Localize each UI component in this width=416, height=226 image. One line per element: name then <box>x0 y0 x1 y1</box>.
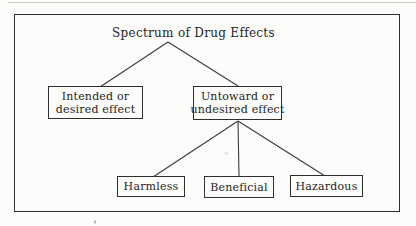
node-label: Beneficial <box>210 181 268 194</box>
connector-untoward-to-hazardous <box>238 121 325 176</box>
connector-title-to-intended <box>100 42 168 87</box>
node-beneficial: Beneficial <box>204 176 274 198</box>
node-label: Harmless <box>124 180 179 193</box>
connector-title-to-untoward <box>168 42 238 86</box>
node-label-line: undesired effect <box>190 103 284 116</box>
drug-effects-diagram: Spectrum of Drug Effects Intended or des… <box>0 0 416 226</box>
node-untoward-effect: Untoward or undesired effect <box>193 86 282 120</box>
node-label-line: desired effect <box>56 103 136 116</box>
node-harmless: Harmless <box>117 176 185 197</box>
connector-untoward-to-harmless <box>153 121 238 177</box>
connector-untoward-to-beneficial <box>238 121 239 176</box>
node-hazardous: Hazardous <box>290 175 363 197</box>
node-label-line: Untoward or <box>201 90 274 103</box>
node-intended-effect: Intended or desired effect <box>48 86 143 119</box>
diagram-title: Spectrum of Drug Effects <box>112 26 270 40</box>
node-label: Hazardous <box>296 180 358 193</box>
node-label-line: Intended or <box>62 90 130 103</box>
